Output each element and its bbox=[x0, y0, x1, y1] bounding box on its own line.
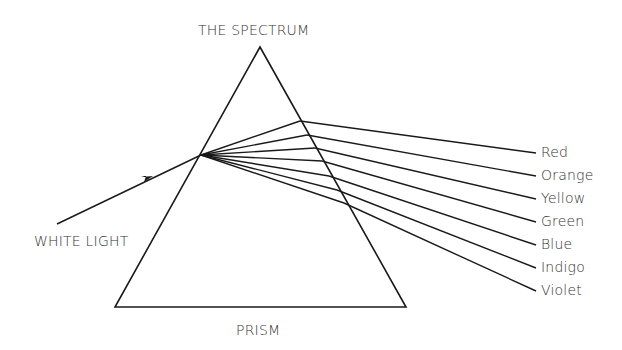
color-label-blue: Blue bbox=[541, 236, 572, 252]
color-label-indigo: Indigo bbox=[541, 259, 585, 275]
spectrum-title: THE SPECTRUM bbox=[198, 22, 309, 38]
prism-label: PRISM bbox=[236, 322, 280, 338]
refracted-rays bbox=[201, 121, 344, 203]
color-label-yellow: Yellow bbox=[541, 190, 585, 206]
color-label-violet: Violet bbox=[541, 282, 582, 298]
white-light-ray bbox=[57, 155, 201, 224]
dispersed-rays bbox=[300, 121, 536, 291]
color-label-orange: Orange bbox=[541, 167, 593, 183]
prism-triangle bbox=[115, 47, 406, 307]
prism-diagram bbox=[0, 0, 622, 350]
white-light-label: WHITE LIGHT bbox=[34, 233, 128, 249]
color-label-red: Red bbox=[541, 144, 568, 160]
color-label-green: Green bbox=[541, 213, 584, 229]
